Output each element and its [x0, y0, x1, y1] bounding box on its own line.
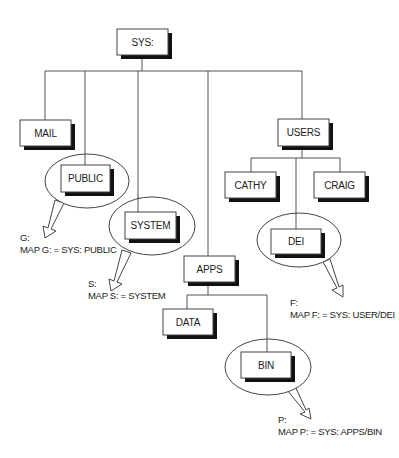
- node-label: CATHY: [234, 180, 267, 191]
- arrow-icon: [323, 259, 343, 297]
- node-apps[interactable]: APPS: [184, 256, 239, 286]
- node-data[interactable]: DATA: [163, 309, 217, 339]
- node-label: SYS:: [132, 37, 154, 48]
- map-command: MAP S: = SYSTEM: [88, 290, 166, 301]
- node-craig[interactable]: CRAIG: [314, 172, 369, 202]
- node-system[interactable]: SYSTEM: [125, 212, 180, 243]
- node-label: SYSTEM: [131, 220, 171, 231]
- node-dei[interactable]: DEI: [271, 229, 325, 258]
- node-bin[interactable]: BIN: [241, 352, 295, 382]
- mapping-f: F: MAP F: = SYS: USER/DEI: [290, 297, 395, 320]
- drive-letter: F:: [290, 297, 298, 308]
- node-sys[interactable]: SYS:: [117, 29, 172, 59]
- node-label: CRAIG: [324, 180, 355, 191]
- node-label: USERS: [287, 127, 321, 138]
- map-command: MAP P: = SYS: APPS/BIN: [278, 426, 382, 437]
- node-label: APPS: [197, 264, 223, 275]
- arrow-icon: [43, 200, 64, 238]
- node-label: DATA: [176, 317, 201, 328]
- node-mail[interactable]: MAIL: [20, 120, 75, 150]
- drive-letter: P:: [278, 414, 286, 425]
- node-label: DEI: [288, 236, 304, 247]
- node-label: PUBLIC: [68, 173, 103, 184]
- map-command: MAP G: = SYS: PUBLIC: [20, 244, 117, 255]
- drive-letter: G:: [20, 232, 29, 243]
- arrow-icon: [109, 250, 131, 291]
- callout-system: [109, 197, 195, 291]
- mapping-s: S: MAP S: = SYSTEM: [88, 278, 166, 301]
- node-label: BIN: [258, 360, 274, 371]
- node-cathy[interactable]: CATHY: [225, 172, 280, 202]
- mapping-g: G: MAP G: = SYS: PUBLIC: [20, 232, 117, 255]
- map-command: MAP F: = SYS: USER/DEI: [290, 309, 395, 320]
- node-users[interactable]: USERS: [278, 119, 333, 150]
- mapping-p: P: MAP P: = SYS: APPS/BIN: [278, 414, 382, 437]
- drive-letter: S:: [88, 278, 96, 289]
- directory-tree-diagram: SYS: MAIL PUBLIC SYSTEM APPS USERS CATHY…: [0, 0, 399, 458]
- node-public[interactable]: PUBLIC: [61, 165, 114, 196]
- node-label: MAIL: [34, 128, 57, 139]
